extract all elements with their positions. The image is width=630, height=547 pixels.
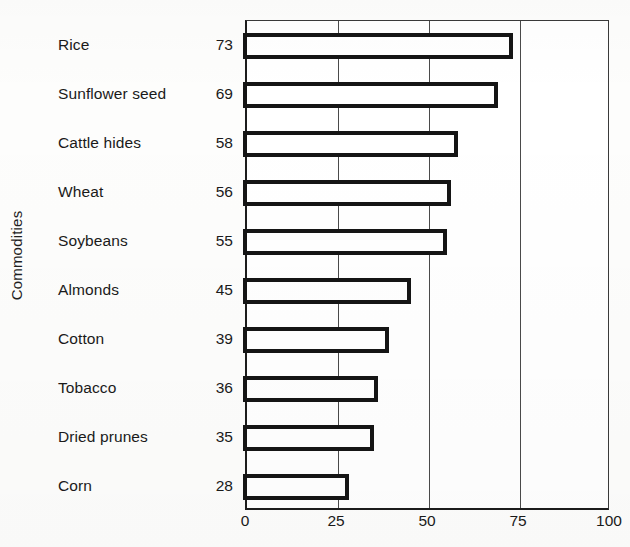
- plot-area: [245, 20, 609, 510]
- category-value: 36: [216, 379, 241, 397]
- bar: [247, 474, 349, 500]
- bar: [247, 327, 389, 353]
- category-row: Tobacco36: [36, 375, 241, 401]
- category-label-column: Rice73Sunflower seed69Cattle hides58Whea…: [36, 20, 241, 510]
- category-row: Almonds45: [36, 277, 241, 303]
- category-value: 73: [216, 36, 241, 54]
- x-tick-label: 50: [418, 512, 435, 530]
- category-row: Corn28: [36, 473, 241, 499]
- category-row: Sunflower seed69: [36, 81, 241, 107]
- bar: [247, 33, 513, 59]
- bar: [247, 376, 378, 402]
- category-name: Almonds: [36, 281, 119, 299]
- x-tick-label: 0: [241, 512, 250, 530]
- bar: [247, 425, 374, 451]
- category-row: Cotton39: [36, 326, 241, 352]
- category-name: Cattle hides: [36, 134, 141, 152]
- bar: [247, 278, 411, 304]
- category-name: Corn: [36, 477, 92, 495]
- category-name: Rice: [36, 36, 89, 54]
- category-value: 39: [216, 330, 241, 348]
- category-row: Soybeans55: [36, 228, 241, 254]
- x-tick-label: 100: [596, 512, 622, 530]
- category-value: 28: [216, 477, 241, 495]
- bar: [247, 131, 458, 157]
- category-value: 69: [216, 85, 241, 103]
- category-name: Tobacco: [36, 379, 116, 397]
- category-name: Wheat: [36, 183, 103, 201]
- horizontal-bar-chart: Commodities Rice73Sunflower seed69Cattle…: [0, 0, 630, 547]
- y-axis-title-text: Commodities: [9, 210, 26, 300]
- bar: [247, 229, 447, 255]
- category-name: Sunflower seed: [36, 85, 166, 103]
- bar: [247, 180, 451, 206]
- category-row: Wheat56: [36, 179, 241, 205]
- y-axis-title: Commodities: [0, 0, 34, 510]
- x-tick-label: 25: [327, 512, 344, 530]
- category-row: Dried prunes35: [36, 424, 241, 450]
- category-name: Cotton: [36, 330, 104, 348]
- x-axis-tick-labels: 0255075100: [245, 512, 609, 542]
- x-tick-label: 75: [509, 512, 526, 530]
- category-row: Cattle hides58: [36, 130, 241, 156]
- category-value: 35: [216, 428, 241, 446]
- bar: [247, 82, 498, 108]
- category-name: Dried prunes: [36, 428, 148, 446]
- category-value: 45: [216, 281, 241, 299]
- category-value: 55: [216, 232, 241, 250]
- category-value: 56: [216, 183, 241, 201]
- gridline: [520, 21, 521, 508]
- category-value: 58: [216, 134, 241, 152]
- category-row: Rice73: [36, 32, 241, 58]
- category-name: Soybeans: [36, 232, 128, 250]
